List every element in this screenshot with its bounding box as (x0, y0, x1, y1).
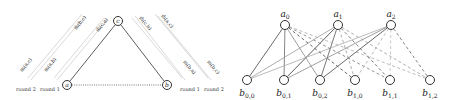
node-c: c (114, 17, 123, 26)
round-label: round 2 (16, 86, 36, 92)
figure-canvas: c a b m̂(b,c) m̃(c,a) m(a,c) m(a,b) m̃(c… (0, 0, 449, 99)
node-label-a1: a1 (333, 9, 342, 20)
node-circle (351, 76, 360, 85)
node-b10: b1,0 (347, 76, 362, 100)
node-b01: b0,1 (276, 76, 291, 100)
message-label: m̃(c,a) (94, 16, 109, 32)
message-label: m(b,c) (206, 59, 221, 75)
node-a: a (63, 81, 72, 90)
round-label: round 1 (40, 86, 60, 92)
edge-c-a (70, 25, 115, 81)
message-label: m(a,c) (18, 56, 33, 72)
node-a-label: a (65, 81, 69, 88)
bipartite-edges (250, 27, 428, 79)
node-b: b (163, 81, 172, 90)
left-diagram: c a b m̂(b,c) m̃(c,a) m(a,c) m(a,b) m̃(c… (16, 13, 224, 92)
bipartite-nodes: a0a1a2b0,0b0,1b0,2b1,0b1,1b1,2 (239, 9, 437, 99)
node-label-b02: b0,2 (312, 88, 327, 99)
node-circle (280, 76, 289, 85)
node-b00: b0,0 (239, 76, 254, 100)
node-label-b00: b0,0 (239, 88, 254, 99)
edge-a2-b02 (324, 28, 388, 77)
edge-a1-b01 (287, 28, 335, 77)
edge-a1-b00 (251, 27, 334, 77)
right-diagram: a0a1a2b0,0b0,1b0,2b1,0b1,1b1,2 (239, 9, 437, 99)
node-label-b11: b1,1 (382, 88, 397, 99)
edge-a2-b12 (394, 29, 428, 77)
edge-a1-b10 (339, 29, 353, 75)
edge-a1-b12 (342, 27, 426, 77)
edge-a0-b12 (289, 27, 426, 79)
round-label: round 2 (204, 86, 224, 92)
node-b12: b1,2 (422, 76, 437, 100)
node-circle (387, 21, 396, 30)
node-b11: b1,1 (382, 76, 397, 100)
edge-a0-b10 (289, 28, 352, 77)
node-label-a2: a2 (386, 9, 395, 20)
node-a2: a2 (386, 9, 395, 30)
node-label-b12: b1,2 (422, 88, 437, 99)
node-circle (334, 21, 343, 30)
node-circle (281, 21, 290, 30)
node-b-label: b (165, 81, 169, 88)
node-label-a0: a0 (280, 9, 289, 20)
node-a1: a1 (333, 9, 342, 30)
edge-a0-b00 (250, 29, 283, 77)
edge-a2-b11 (390, 29, 391, 75)
node-label-b10: b1,0 (347, 88, 362, 99)
node-a0: a0 (280, 9, 289, 30)
node-circle (316, 76, 325, 85)
round-label: round 1 (180, 86, 200, 92)
edge-a2-b00 (251, 27, 387, 79)
node-circle (426, 76, 435, 85)
edge-a0-b01 (284, 29, 285, 75)
node-circle (386, 76, 395, 85)
node-label-b01: b0,1 (276, 88, 291, 99)
node-circle (243, 76, 252, 85)
edge-c-b (121, 25, 164, 81)
node-b02: b0,2 (312, 76, 327, 100)
